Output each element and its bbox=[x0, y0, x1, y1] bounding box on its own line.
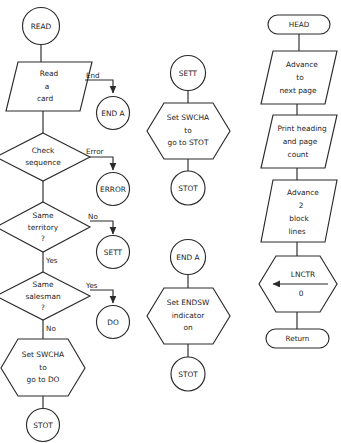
node-error-connector-line-0: ERROR bbox=[100, 185, 126, 194]
flowchart-canvas: READ Read a card End END A Check sequenc… bbox=[0, 0, 341, 443]
node-set-swcha-stot-line-2: go to STOT bbox=[168, 138, 209, 147]
node-lnctr-reset-line-1: 0 bbox=[299, 289, 304, 298]
node-set-endsw-line-0: Set ENDSW bbox=[167, 298, 210, 307]
label-no-1: No bbox=[88, 212, 98, 221]
node-print-heading-line-0: Print heading bbox=[277, 124, 327, 133]
node-set-swcha-do-line-0: Set SWCHA bbox=[22, 350, 64, 359]
node-same-territory-line-2: ? bbox=[41, 234, 45, 243]
node-print-heading: Print heading and page count bbox=[261, 115, 337, 168]
node-print-heading-line-2: count bbox=[288, 150, 309, 159]
node-read-start: READ bbox=[23, 8, 60, 45]
node-sett-start: SETT bbox=[171, 56, 206, 91]
node-set-endsw-line-1: indicator bbox=[172, 311, 205, 320]
node-read-a-card: Read a card bbox=[6, 62, 92, 111]
node-same-salesman: Same salesman ? bbox=[0, 272, 90, 320]
node-advance-lines-line-3: lines bbox=[288, 227, 305, 236]
node-same-territory-line-1: territory bbox=[28, 223, 59, 232]
node-set-swcha-stot: Set SWCHA to go to STOT bbox=[147, 103, 230, 159]
node-lnctr-reset: LNCTR 0 bbox=[259, 256, 337, 312]
node-do-connector: DO bbox=[97, 306, 130, 339]
connector-error-branch bbox=[90, 157, 113, 170]
node-read-a-card-line-0: Read bbox=[40, 69, 59, 78]
node-set-swcha-do-line-1: to bbox=[39, 363, 47, 372]
node-end-a-start-line-0: END A bbox=[176, 253, 199, 262]
node-same-salesman-line-1: salesman bbox=[25, 292, 61, 301]
node-set-endsw: Set ENDSW indicator on bbox=[147, 288, 230, 344]
node-sett-start-line-0: SETT bbox=[179, 69, 198, 78]
node-advance-page-line-1: to bbox=[296, 73, 304, 82]
node-end-a-connector: END A bbox=[97, 97, 130, 130]
node-set-endsw-line-2: on bbox=[183, 323, 193, 332]
node-print-heading-line-1: and page bbox=[283, 137, 318, 146]
node-same-territory-line-0: Same bbox=[33, 211, 54, 220]
node-return-end-line-0: Return bbox=[286, 334, 310, 343]
label-yes-2: Yes bbox=[85, 281, 98, 290]
node-stot-connector-2: STOT bbox=[171, 171, 205, 205]
flowchart-diagram: READ Read a card End END A Check sequenc… bbox=[0, 0, 341, 443]
node-error-connector: ERROR bbox=[97, 173, 130, 206]
node-set-swcha-do: Set SWCHA to go to DO bbox=[1, 339, 85, 396]
node-sett-connector: SETT bbox=[97, 236, 130, 269]
node-check-sequence: Check sequence bbox=[0, 133, 90, 181]
connector-end-branch bbox=[85, 80, 113, 93]
node-stot-connector-1-line-0: STOT bbox=[33, 421, 53, 430]
node-advance-page-line-0: Advance bbox=[286, 60, 318, 69]
label-error: Error bbox=[86, 147, 104, 156]
node-stot-connector-1: STOT bbox=[27, 409, 60, 442]
node-stot-connector-3-line-0: STOT bbox=[178, 370, 198, 379]
node-end-a-start: END A bbox=[171, 240, 206, 275]
node-check-sequence-line-0: Check bbox=[32, 146, 55, 155]
node-advance-page: Advance to next page bbox=[261, 51, 337, 104]
decision-diamond bbox=[0, 133, 90, 181]
node-advance-page-line-2: next page bbox=[279, 86, 317, 95]
label-end: End bbox=[86, 71, 100, 80]
node-head-start: HEAD bbox=[268, 15, 330, 34]
node-same-salesman-line-2: ? bbox=[41, 303, 45, 312]
label-no-2: No bbox=[46, 324, 56, 333]
label-yes-1: Yes bbox=[45, 256, 58, 265]
node-same-salesman-line-0: Same bbox=[33, 280, 54, 289]
node-set-swcha-do-line-2: go to DO bbox=[27, 375, 60, 384]
node-read-a-card-line-2: card bbox=[37, 94, 54, 103]
node-sett-connector-line-0: SETT bbox=[104, 248, 123, 257]
node-check-sequence-line-1: sequence bbox=[25, 158, 61, 167]
node-same-territory: Same territory ? bbox=[0, 202, 90, 252]
node-lnctr-reset-line-0: LNCTR bbox=[291, 270, 315, 279]
connector-yes-branch-salesman bbox=[90, 290, 113, 303]
node-advance-lines: Advance 2 block lines bbox=[261, 180, 337, 242]
node-read-start-line-0: READ bbox=[31, 22, 52, 31]
node-advance-lines-line-2: block bbox=[289, 214, 309, 223]
node-end-a-connector-line-0: END A bbox=[101, 109, 124, 118]
node-advance-lines-line-1: 2 bbox=[299, 201, 304, 210]
connector-no-branch-territory bbox=[90, 221, 113, 234]
node-set-swcha-stot-line-1: to bbox=[184, 126, 192, 135]
node-advance-lines-line-0: Advance bbox=[287, 188, 319, 197]
node-head-start-line-0: HEAD bbox=[289, 20, 310, 29]
node-do-connector-line-0: DO bbox=[107, 318, 119, 327]
node-return-end: Return bbox=[266, 329, 329, 348]
node-stot-connector-2-line-0: STOT bbox=[178, 184, 198, 193]
node-set-swcha-stot-line-0: Set SWCHA bbox=[167, 113, 209, 122]
node-stot-connector-3: STOT bbox=[171, 357, 205, 391]
node-read-a-card-line-1: a bbox=[45, 82, 50, 91]
